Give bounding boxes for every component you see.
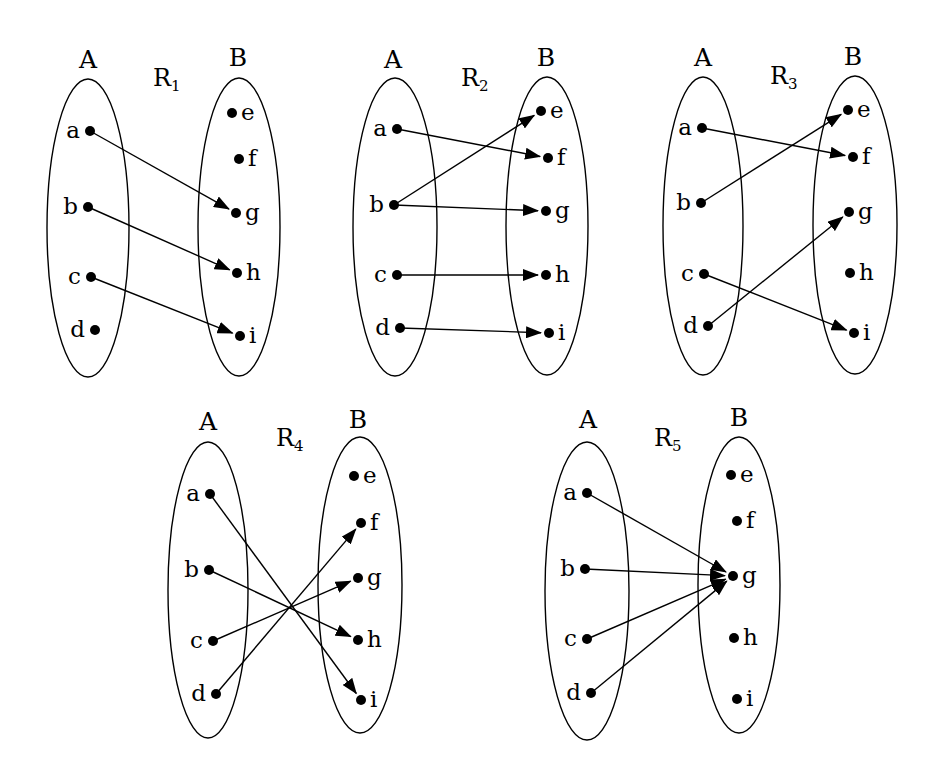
arrow-c-to-i [91,277,233,333]
element-dot-c [86,272,96,282]
element-dot-f [732,516,742,526]
element-dot-i [235,331,245,341]
element-dot-d [90,325,100,335]
arrow-b-to-h [88,207,230,270]
element-label-c: c [681,260,694,286]
element-dot-h [541,270,551,280]
element-dot-f [356,518,366,528]
element-dot-e [349,471,359,481]
element-label-i: i [370,686,377,712]
element-label-i: i [249,322,256,348]
element-dot-a [582,488,592,498]
element-label-f: f [746,507,756,533]
set-a-label: A [383,45,403,74]
element-label-c: c [68,263,81,289]
element-label-d: d [375,314,390,340]
element-label-c: c [374,261,387,287]
arrow-b-to-g [585,569,725,576]
element-dot-g [231,208,241,218]
arrow-c-to-i [704,274,847,330]
element-dot-f [234,154,244,164]
set-a-label: A [693,43,713,72]
relation-label: R4 [276,424,304,455]
element-label-a: a [678,114,692,140]
element-label-g: g [245,199,260,225]
element-label-d: d [70,316,85,342]
relation-diagrams-figure: ABR1abcdefghiABR2abcdefghiABR3abcdefghiA… [0,0,939,773]
element-dot-h [232,268,242,278]
element-label-e: e [363,462,377,488]
element-dot-e [536,106,546,116]
set-b-label: B [537,43,555,72]
relation-diagram-r1: ABR1abcdefghi [47,43,280,377]
arrow-b-to-e [394,115,534,205]
relation-diagram-r4: ABR4abcdefghi [168,405,402,738]
element-dot-f [543,153,553,163]
element-dot-b [696,198,706,208]
element-label-i: i [863,319,870,345]
element-label-h: h [859,259,874,285]
set-a-ellipse [47,79,129,377]
arrow-a-to-i [210,494,356,694]
element-dot-b [580,564,590,574]
arrow-d-to-g [708,217,843,326]
arrow-a-to-f [702,128,845,156]
element-dot-d [703,321,713,331]
element-label-g: g [742,562,757,588]
element-dot-d [211,689,221,699]
arrow-d-to-f [216,529,356,694]
set-a-label: A [78,45,98,74]
set-b-label: B [229,43,247,72]
relation-diagram-r5: ABR5abcdefghi [545,403,780,740]
element-label-b: b [63,193,78,219]
element-label-g: g [555,197,570,223]
element-label-i: i [558,319,565,345]
element-label-g: g [367,564,382,590]
arrow-d-to-i [400,328,541,333]
element-dot-g [728,571,738,581]
set-a-ellipse [168,442,248,738]
element-label-g: g [858,198,873,224]
element-dot-e [843,105,853,115]
set-b-label: B [730,403,748,432]
set-a-ellipse [663,77,743,375]
element-label-c: c [190,627,203,653]
element-label-b: b [184,556,199,582]
element-label-a: a [563,479,577,505]
element-dot-i [849,328,859,338]
element-dot-h [353,635,363,645]
relation-label: R1 [153,64,181,95]
element-label-e: e [857,96,871,122]
element-dot-g [353,573,363,583]
arrow-a-to-g [90,131,229,209]
element-dot-i [356,695,366,705]
relation-diagram-r3: ABR3abcdefghi [663,42,897,375]
set-a-ellipse [353,78,437,376]
element-dot-g [844,207,854,217]
element-label-a: a [186,480,200,506]
element-dot-a [697,123,707,133]
arrow-b-to-h [209,570,351,637]
element-label-e: e [550,97,564,123]
element-label-i: i [746,685,753,711]
element-dot-h [845,268,855,278]
element-dot-a [85,126,95,136]
element-label-d: d [566,679,581,705]
element-dot-d [395,323,405,333]
element-label-f: f [370,509,380,535]
element-label-a: a [373,115,387,141]
element-dot-c [582,634,592,644]
element-dot-d [586,688,596,698]
element-dot-c [208,636,218,646]
relation-diagram-r2: ABR2abcdefghi [353,43,588,376]
element-dot-b [389,200,399,210]
element-label-c: c [564,625,577,651]
arrow-c-to-g [587,579,726,639]
relation-label: R2 [461,64,489,95]
relation-label: R5 [654,424,682,455]
set-a-label: A [198,407,218,436]
element-label-e: e [241,99,255,125]
element-dot-b [204,565,214,575]
element-dot-b [83,202,93,212]
element-label-h: h [555,261,570,287]
